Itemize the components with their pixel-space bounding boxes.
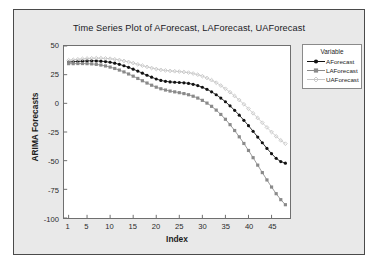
x-tick-label: 25 [175,222,183,231]
data-point [127,66,130,69]
series-line [69,64,286,205]
data-point [127,72,130,75]
series-canvas [64,46,290,218]
data-point [178,81,181,84]
data-point [173,81,176,84]
data-point [192,83,195,86]
data-point [141,79,144,82]
legend-entry-label: UAForecast [326,76,359,83]
data-point [187,82,190,85]
x-tick-label: 15 [129,222,137,231]
data-point [215,93,218,96]
figure-panel: Time Series Plot of AForecast, LAForecas… [13,9,365,255]
data-point [113,67,116,70]
data-point [261,171,264,174]
data-point [132,75,135,78]
data-point [252,130,255,133]
data-point [247,124,250,127]
data-point [178,91,181,94]
legend-box: Variable AForecastLAForecastUAForecast [302,44,362,89]
legend-entry-label: AForecast [326,58,354,65]
y-tick-label: 25 [51,70,59,79]
x-tick-label: 5 [84,222,88,231]
series-laforecast [67,62,287,206]
data-point [155,77,158,80]
data-point [210,90,213,93]
chart-title: Time Series Plot of AForecast, LAForecas… [14,23,364,33]
x-tick-label: 35 [222,222,230,231]
data-point [155,86,158,89]
data-point [215,109,218,112]
data-point [145,74,148,77]
data-point [104,64,107,67]
data-point [270,185,273,188]
data-point [145,81,148,84]
open-diamond-marker [306,75,326,84]
data-point [113,62,116,65]
plot-area [63,45,291,219]
legend-entry: UAForecast [306,75,358,84]
data-point [242,142,245,145]
data-point [90,62,93,65]
data-point [196,84,199,87]
data-point [228,123,231,126]
data-point [192,95,195,98]
data-point [279,160,282,163]
legend-entry-label: LAForecast [326,67,358,74]
data-point [238,135,241,138]
data-point [150,76,153,79]
data-point [205,102,208,105]
data-point [150,84,153,87]
data-point [118,68,121,71]
legend-entry: AForecast [306,57,358,66]
data-point [164,80,167,83]
x-tick-label: 1 [66,222,70,231]
data-point [95,63,98,66]
data-point [265,178,268,181]
data-point [122,70,125,73]
data-point [228,104,231,107]
data-point [109,66,112,69]
data-point [72,62,75,65]
data-point [205,88,208,91]
data-point [279,198,282,201]
data-point [118,63,121,66]
data-point [314,59,318,63]
data-point [159,79,162,82]
data-point [247,149,250,152]
data-point [136,70,139,73]
legend-title: Variable [306,48,358,55]
x-tick-label: 10 [105,222,113,231]
data-point [182,92,185,95]
filled-square-marker [306,66,326,75]
data-point [164,88,167,91]
data-point [275,192,278,195]
data-point [284,162,287,165]
data-point [242,119,245,122]
data-point [261,141,264,144]
legend-entries: AForecastLAForecastUAForecast [306,57,358,84]
data-point [132,68,135,71]
data-point [284,203,287,206]
y-axis-tick-labels: 50250-25-50-75-100 [14,45,59,219]
data-point [265,147,268,150]
data-point [275,157,278,160]
legend-entry: LAForecast [306,66,358,75]
data-point [136,77,139,80]
x-tick-label: 45 [268,222,276,231]
y-tick-label: -50 [48,157,59,166]
y-tick-label: -100 [44,215,59,224]
data-point [99,63,102,66]
data-point [81,62,84,65]
data-point [219,96,222,99]
y-tick-label: 50 [51,41,59,50]
x-tick-label: 30 [198,222,206,231]
data-point [270,152,273,155]
data-point [182,81,185,84]
data-point [122,64,125,67]
x-axis-title: Index [63,234,291,244]
data-point [76,62,79,65]
data-point [168,80,171,83]
data-point [187,93,190,96]
data-point [233,129,236,132]
